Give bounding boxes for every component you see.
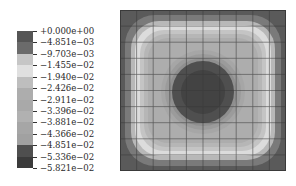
- colorbar-band: [17, 77, 33, 89]
- colorbar-tick-label: −5.336e−02: [40, 152, 94, 161]
- colorbar-band: [17, 88, 33, 100]
- colorbar-tick: [33, 122, 37, 123]
- colorbar-band: [17, 134, 33, 146]
- contour-plot-canvas: [120, 10, 286, 171]
- colorbar-tick-label: −1.940e−02: [40, 72, 94, 81]
- colorbar-tick: [33, 168, 37, 169]
- colorbar-band: [17, 65, 33, 77]
- colorbar-tick: [33, 134, 37, 135]
- colorbar-band: [17, 42, 33, 54]
- colorbar-band: [17, 111, 33, 123]
- colorbar-tick: [33, 111, 37, 112]
- colorbar-tick-label: −4.851e−02: [40, 141, 94, 150]
- colorbar-tick: [33, 42, 37, 43]
- colorbar-tick-label: −2.911e−02: [40, 95, 94, 104]
- colorbar-tick-label: −3.396e−02: [40, 106, 94, 115]
- colorbar-tick-label: −4.851e−03: [40, 38, 94, 47]
- colorbar: [17, 31, 33, 168]
- colorbar-band: [17, 122, 33, 134]
- colorbar-band: [17, 157, 33, 169]
- colorbar-tick-label: −2.426e−02: [40, 84, 94, 93]
- colorbar-tick-label: −3.881e−02: [40, 118, 94, 127]
- colorbar-band: [17, 54, 33, 66]
- colorbar-tick: [33, 157, 37, 158]
- colorbar-tick: [33, 145, 37, 146]
- colorbar-tick: [33, 54, 37, 55]
- colorbar-tick-label: −4.366e−02: [40, 129, 94, 138]
- colorbar-tick-label: +0.000e+00: [40, 27, 94, 36]
- colorbar-band: [17, 145, 33, 157]
- colorbar-tick-label: −9.703e−03: [40, 49, 94, 58]
- colorbar-tick: [33, 31, 37, 32]
- colorbar-tick: [33, 77, 37, 78]
- colorbar-legend: +0.000e+00−4.851e−03−9.703e−03−1.455e−02…: [17, 31, 117, 171]
- colorbar-tick-label: −5.821e−02: [40, 164, 94, 173]
- contour-plot: [120, 10, 286, 171]
- colorbar-tick-label: −1.455e−02: [40, 61, 94, 70]
- colorbar-tick: [33, 65, 37, 66]
- colorbar-tick: [33, 100, 37, 101]
- colorbar-band: [17, 31, 33, 43]
- colorbar-tick: [33, 88, 37, 89]
- colorbar-band: [17, 100, 33, 112]
